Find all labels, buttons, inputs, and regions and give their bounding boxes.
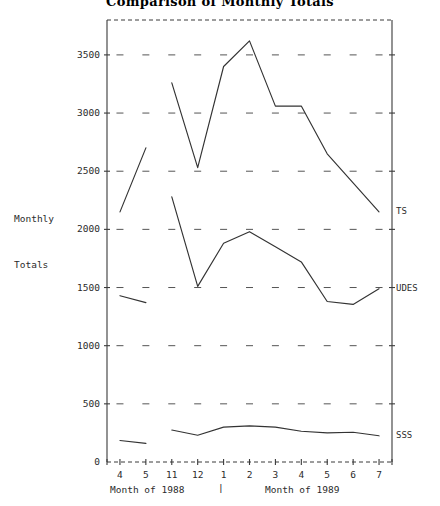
x-axis-footer-divider: | — [218, 483, 224, 493]
series-label-udes: UDES — [396, 284, 418, 293]
y-tick-label: 0 — [40, 457, 100, 467]
x-tick-label: 3 — [261, 470, 289, 480]
y-tick-label: 3500 — [40, 50, 100, 60]
x-tick-label: 1 — [210, 470, 238, 480]
y-tick-label: 1000 — [40, 341, 100, 351]
y-tick-label: 1500 — [40, 283, 100, 293]
chart-title: Comparison of Monthly Totals — [0, 0, 440, 9]
x-tick-label: 12 — [184, 470, 212, 480]
y-tick-label: 3000 — [40, 108, 100, 118]
x-tick-label: 5 — [313, 470, 341, 480]
y-tick-label: 500 — [40, 399, 100, 409]
plot-area — [0, 0, 440, 506]
chart-container: Comparison of Monthly Totals Monthly Tot… — [0, 0, 440, 506]
x-tick-label: 2 — [236, 470, 264, 480]
x-tick-label: 7 — [365, 470, 393, 480]
y-tick-label: 2000 — [40, 224, 100, 234]
y-axis-label-line1: Monthly — [14, 214, 54, 224]
y-axis-label-line2: Totals — [14, 260, 48, 270]
x-axis-footer-1989: Month of 1989 — [265, 485, 339, 495]
series-label-sss: SSS — [396, 431, 412, 440]
x-tick-label: 4 — [106, 470, 134, 480]
x-tick-label: 4 — [287, 470, 315, 480]
x-tick-label: 5 — [132, 470, 160, 480]
x-axis-footer-1988: Month of 1988 — [110, 485, 184, 495]
y-tick-label: 2500 — [40, 166, 100, 176]
x-tick-label: 6 — [339, 470, 367, 480]
series-label-ts: TS — [396, 207, 407, 216]
x-tick-label: 11 — [158, 470, 186, 480]
